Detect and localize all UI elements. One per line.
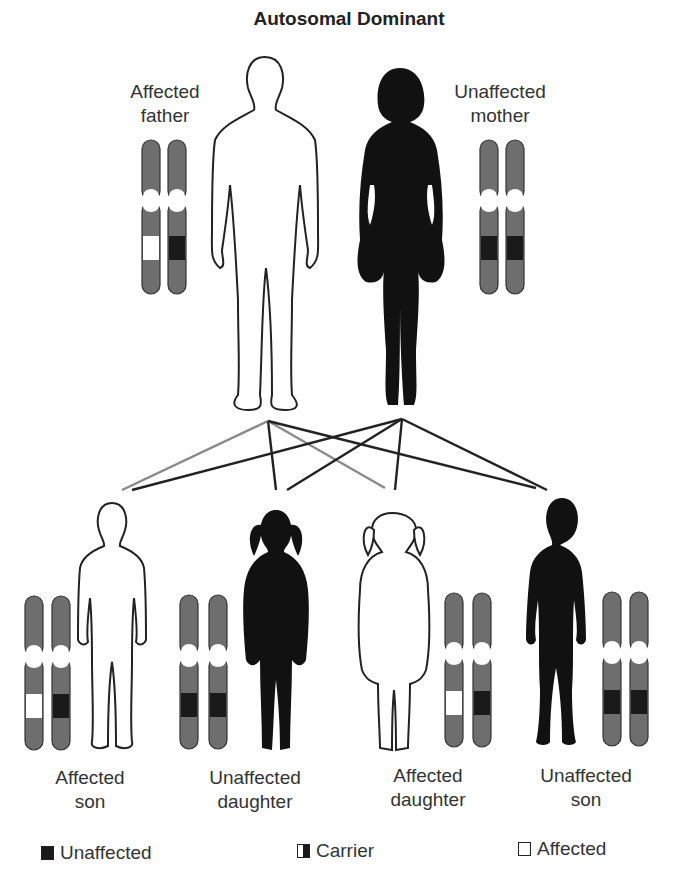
legend-carrier: Carrier (297, 840, 374, 862)
father-chromosomes (142, 140, 186, 294)
inheritance-lines (122, 419, 547, 490)
mother-figure (358, 68, 445, 405)
legend-affected: Affected (518, 838, 606, 860)
filled-swatch-icon (41, 846, 54, 860)
pedigree-graphic (0, 0, 698, 876)
half-swatch-icon (297, 844, 310, 858)
child-affected-daughter-figure (359, 513, 430, 750)
child-unaffected-son-figure (526, 498, 586, 745)
legend-unaffected: Unaffected (41, 842, 152, 864)
child-affected-son-figure (78, 503, 146, 748)
father-figure (212, 57, 318, 410)
empty-swatch-icon (518, 842, 531, 856)
mother-chromosomes (480, 140, 524, 294)
child-unaffected-daughter-figure (243, 510, 309, 750)
label-child-unaffected-daughter: Unaffected daughter (190, 766, 320, 814)
child-unaffected-son-chromosomes (603, 592, 648, 746)
label-child-unaffected-son: Unaffected son (526, 764, 646, 812)
child-affected-son-chromosomes (25, 596, 70, 750)
child-unaffected-daughter-chromosomes (180, 595, 227, 749)
label-child-affected-daughter: Affected daughter (368, 764, 488, 812)
child-affected-daughter-chromosomes (445, 593, 491, 747)
label-child-affected-son: Affected son (30, 766, 150, 814)
